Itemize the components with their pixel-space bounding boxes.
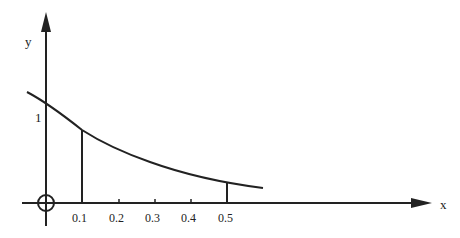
- x-axis-arrowhead: [411, 198, 432, 208]
- decay-curve: [27, 92, 263, 188]
- x-tick-label-0.5: 0.5: [218, 211, 233, 225]
- x-tick-label-0.3: 0.3: [145, 211, 160, 225]
- y-axis-arrowhead: [41, 12, 51, 32]
- x-tick-label-0.1: 0.1: [72, 211, 87, 225]
- x-tick-label-0.4: 0.4: [181, 211, 196, 225]
- y-axis-label: y: [25, 34, 32, 49]
- diagram-canvas: y x 1 0.1 0.2 0.3 0.4 0.5: [0, 0, 460, 238]
- x-tick-label-0.2: 0.2: [109, 211, 124, 225]
- x-axis-label: x: [440, 197, 447, 212]
- y-tick-label-1: 1: [35, 110, 42, 125]
